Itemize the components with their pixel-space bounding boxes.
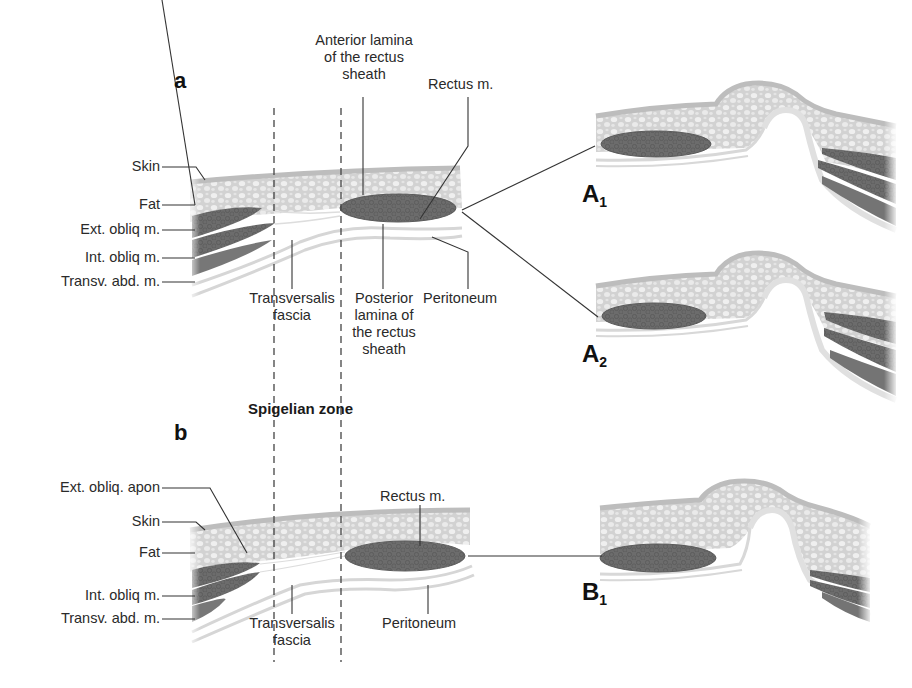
label-posterior-lamina: Posterior lamina of the rectus sheath bbox=[340, 290, 428, 358]
anatomy-illustration bbox=[0, 0, 912, 688]
variant-label-a1: A1 bbox=[582, 180, 607, 210]
label-peritoneum-a: Peritoneum bbox=[423, 290, 497, 307]
panel-a-cross-section bbox=[186, 160, 462, 300]
label-int-obliq-b: Int. obliq m. bbox=[85, 587, 160, 604]
panel-label-a: a bbox=[174, 68, 186, 94]
panel-label-b: b bbox=[174, 420, 187, 446]
label-transversalis-b: Transversalis fascia bbox=[240, 615, 344, 649]
label-fat-a: Fat bbox=[139, 196, 160, 213]
label-transv-abd-b: Transv. abd. m. bbox=[61, 610, 160, 627]
variant-b1-illustration bbox=[600, 481, 872, 630]
label-rectus-a: Rectus m. bbox=[428, 76, 493, 93]
label-ext-obliq-apon-b: Ext. obliq. apon bbox=[60, 479, 160, 496]
variant-label-b1: B1 bbox=[582, 578, 607, 608]
label-ext-obliq-a: Ext. obliq m. bbox=[80, 221, 160, 238]
variant-a2-illustration bbox=[596, 253, 898, 405]
label-peritoneum-b: Peritoneum bbox=[382, 615, 456, 632]
label-rectus-b: Rectus m. bbox=[380, 488, 445, 505]
variant-a1-illustration bbox=[596, 83, 898, 235]
label-anterior-lamina: Anterior lamina of the rectus sheath bbox=[296, 32, 432, 83]
spigelian-zone-label: Spigelian zone bbox=[248, 400, 353, 417]
label-int-obliq-a: Int. obliq m. bbox=[85, 249, 160, 266]
label-transversalis-a: Transversalis fascia bbox=[240, 290, 344, 324]
variant-label-a2: A2 bbox=[582, 340, 607, 370]
label-transv-abd-a: Transv. abd. m. bbox=[61, 273, 160, 290]
label-skin-b: Skin bbox=[132, 513, 160, 530]
label-skin-a: Skin bbox=[132, 158, 160, 175]
label-fat-b: Fat bbox=[139, 544, 160, 561]
spigelian-hernia-figure: a b Spigelian zone Skin Fat Ext. obliq m… bbox=[0, 0, 912, 688]
